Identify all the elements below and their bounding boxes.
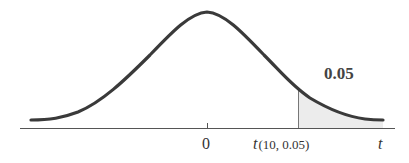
- zero-tick-label: 0: [202, 135, 210, 152]
- tail-area-label: 0.05: [324, 64, 354, 83]
- critical-t-args: (10, 0.05): [258, 137, 309, 152]
- critical-value-label: t(10, 0.05): [253, 135, 309, 152]
- shaded-tail-region: [298, 91, 383, 128]
- t-distribution-diagram: 0.05 0 t(10, 0.05) t: [0, 0, 409, 163]
- critical-t-symbol: t: [253, 135, 258, 152]
- x-axis-variable-label: t: [378, 135, 383, 152]
